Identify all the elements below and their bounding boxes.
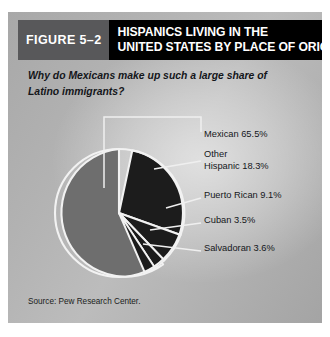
leader-line-other-hispanic [154,161,201,169]
leader-line-mexican [104,117,201,188]
pie-label-other-hispanic-line-1: Other [204,149,269,161]
pie-slice-other-hispanic [119,150,184,235]
pie-slice-puerto-rican [119,213,181,260]
figure-card: FIGURE 5–2 HISPANICS LIVING IN THE UNITE… [8,12,322,323]
leader-line-puerto-rican [166,198,201,208]
pie-label-salvadoran: Salvadoran 3.6% [204,243,275,255]
figure-header-band: FIGURE 5–2 HISPANICS LIVING IN THE UNITE… [18,20,314,60]
figure-number-badge: FIGURE 5–2 [18,20,109,60]
pie-outline-ring [55,149,183,277]
pie-label-mexican: Mexican 65.5% [204,129,268,141]
figure-title-line-1: HISPANICS LIVING IN THE [118,25,322,40]
pie-slice-cuban [119,213,164,268]
figure-subtitle: Why do Mexicans make up such a large sha… [28,68,298,99]
pie-slice-salvadoran [119,213,155,273]
figure-title-line-2: UNITED STATES BY PLACE OF ORIGIN [118,40,322,55]
source-note: Source: Pew Research Center. [28,297,140,306]
figure-title-box: HISPANICS LIVING IN THE UNITED STATES BY… [109,20,322,60]
pie-label-other-hispanic-line-2: Hispanic 18.3% [204,161,269,173]
pie-slice-mexican [61,149,163,277]
leader-line-cuban [150,223,201,230]
leader-line-salvadoran [143,244,201,251]
pie-label-cuban: Cuban 3.5% [204,215,255,227]
pie-label-puerto-rican: Puerto Rican 9.1% [204,190,282,202]
pie-label-other-hispanic: Other Hispanic 18.3% [204,149,269,173]
